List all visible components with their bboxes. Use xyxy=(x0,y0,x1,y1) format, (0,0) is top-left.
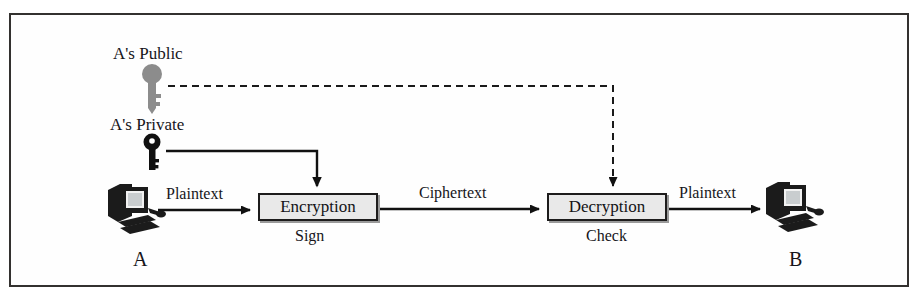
encryption-sublabel: Sign xyxy=(295,228,324,244)
connector-public-key-to-decryption xyxy=(168,86,613,186)
public-key-icon xyxy=(142,64,162,114)
private-key-label: A's Private xyxy=(110,116,184,133)
connector-private-key-to-encryption xyxy=(166,151,317,186)
node-label-a: A xyxy=(133,249,147,269)
decryption-box-label: Decryption xyxy=(569,197,645,217)
private-key-icon xyxy=(144,134,161,171)
encryption-box-label: Encryption xyxy=(280,197,356,217)
flow-label-ciphertext: Ciphertext xyxy=(419,185,487,201)
decryption-sublabel: Check xyxy=(586,228,627,244)
flow-label-plaintext-out: Plaintext xyxy=(679,185,736,201)
decryption-box[interactable]: Decryption xyxy=(547,193,667,221)
computer-icon-a xyxy=(108,184,166,234)
public-key-label: A's Public xyxy=(113,45,183,62)
computer-icon-b xyxy=(766,182,824,232)
encryption-box[interactable]: Encryption xyxy=(258,193,378,221)
node-label-b: B xyxy=(789,249,802,269)
flow-label-plaintext-in: Plaintext xyxy=(166,186,223,202)
diagram-root: A's Public A's Private Encryption Sign D… xyxy=(0,0,924,302)
